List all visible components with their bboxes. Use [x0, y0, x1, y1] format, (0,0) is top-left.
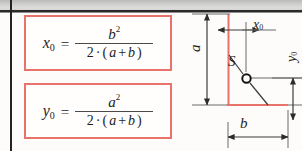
numerator-symbol-b: b	[108, 27, 116, 42]
formula-box-x0: x0 = b2 2 · ( a + b )	[24, 15, 172, 71]
dimension-label-y0: y0	[285, 52, 299, 62]
denominator-y0: 2 · ( a + b )	[83, 112, 146, 128]
formula-box-y0: y0 = a2 2 · ( a + b )	[24, 83, 172, 139]
equation-y0: y0 = a2 2 · ( a + b )	[26, 85, 170, 137]
numerator-symbol-a: a	[108, 95, 116, 110]
centroid-diagonal-lower	[250, 83, 268, 105]
equation-y0-lhs: y0	[43, 103, 55, 119]
fraction-x0: b2 2 · ( a + b )	[75, 27, 153, 60]
symbol-x: x	[43, 35, 50, 51]
numerator-exponent-2: 2	[116, 93, 121, 102]
figure-page: x0 = b2 2 · ( a + b )	[0, 0, 302, 151]
subscript-0: 0	[50, 43, 55, 53]
denominator-open-paren: (	[102, 46, 107, 60]
denominator-open-paren: (	[102, 114, 107, 128]
equation-x0-lhs: x0	[43, 35, 55, 51]
equals-sign-y0: =	[60, 104, 70, 121]
equation-x0: x0 = b2 2 · ( a + b )	[26, 17, 170, 69]
denominator-dot: ·	[96, 46, 101, 60]
dimension-label-b: b	[240, 116, 248, 131]
fraction-y0: a2 2 · ( a + b )	[75, 95, 153, 128]
denominator-plus: +	[118, 114, 126, 128]
denominator-plus: +	[118, 46, 126, 60]
denominator-term-b: b	[128, 114, 135, 128]
denominator-term-a: a	[109, 46, 116, 60]
dimension-label-y0-subscript: 0	[291, 52, 299, 56]
numerator-y0: a2	[104, 95, 124, 111]
denominator-dot: ·	[96, 114, 101, 128]
numerator-exponent-2: 2	[116, 25, 121, 34]
denominator-factor: 2	[87, 114, 94, 128]
symbol-y: y	[43, 103, 50, 119]
page-left-rule	[10, 0, 12, 151]
denominator-close-paren: )	[137, 46, 142, 60]
dimension-label-x0: x0	[253, 18, 263, 32]
denominator-term-b: b	[128, 46, 135, 60]
centroid-marker	[242, 74, 250, 82]
equals-sign-x0: =	[60, 36, 70, 53]
denominator-close-paren: )	[137, 114, 142, 128]
dimension-label-a: a	[188, 45, 203, 53]
subscript-0: 0	[50, 111, 55, 121]
dimension-label-x0-subscript: 0	[259, 24, 263, 32]
denominator-term-a: a	[109, 114, 116, 128]
l-profile-diagram: a b x0 y0 S	[180, 0, 302, 151]
centroid-label-s: S	[228, 54, 236, 69]
denominator-x0: 2 · ( a + b )	[83, 44, 146, 60]
dimension-label-y0-symbol: y	[285, 56, 299, 62]
denominator-factor: 2	[87, 46, 94, 60]
numerator-x0: b2	[104, 27, 124, 43]
